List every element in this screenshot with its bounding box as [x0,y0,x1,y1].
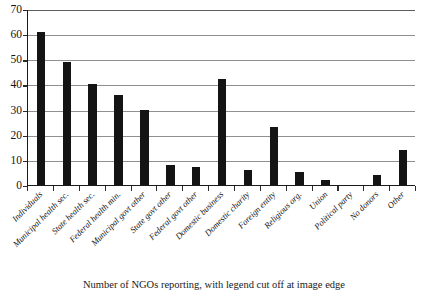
figure-caption: Number of NGOs reporting, with legend cu… [0,279,428,292]
y-axis-tick-label: 10 [0,155,22,167]
x-axis-labels: IndividualsMunicipal health sec.State he… [0,186,428,276]
bar [373,175,382,185]
x-axis-tick-mark [286,186,287,191]
bar [218,79,227,185]
x-axis-tick-mark [234,186,235,191]
y-axis-tick-label: 30 [0,105,22,117]
x-axis-tick-mark [79,186,80,191]
x-axis-tick-label: Union [307,190,329,212]
x-axis-tick-mark [208,186,209,191]
y-axis-tick-label: 50 [0,54,22,66]
plot-area [27,10,415,186]
x-axis-tick-mark [156,186,157,191]
x-axis-tick-mark [131,186,132,191]
x-axis-tick-mark [182,186,183,191]
gridline [28,10,415,11]
x-axis-tick-mark [105,186,106,191]
x-axis-tick-mark [312,186,313,191]
x-axis-tick-mark [53,186,54,191]
bar [114,95,123,186]
x-axis-tick-label: Other [386,190,407,211]
y-axis-tick-label: 70 [0,4,22,16]
bar [37,32,46,185]
bar [166,165,175,185]
bar [140,110,149,185]
x-axis-tick-label-text: Union [307,190,329,212]
bar [88,84,97,185]
bar [270,127,279,185]
gridline [28,60,415,61]
x-axis-tick-mark [260,186,261,191]
bar [321,180,330,185]
x-axis-tick-mark [337,186,338,191]
gridline [28,35,415,36]
bar-chart: 010203040506070 IndividualsMunicipal hea… [0,0,428,292]
x-axis-tick-mark [415,186,416,191]
x-axis-tick-label-text: Other [386,190,407,211]
x-axis-tick-mark [363,186,364,191]
bar [192,167,201,185]
y-axis-tick-label: 40 [0,79,22,91]
x-axis-tick-mark [389,186,390,191]
x-axis-tick-mark [27,186,28,191]
bar [295,172,304,185]
y-axis-tick-label: 20 [0,130,22,142]
bar [399,150,408,185]
bar [244,170,253,185]
y-axis-tick-label: 60 [0,29,22,41]
bar [63,62,72,185]
